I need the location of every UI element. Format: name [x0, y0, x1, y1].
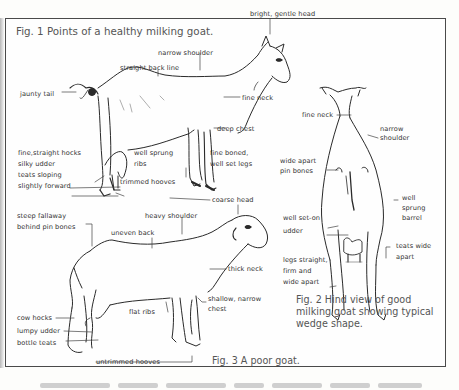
- label-bright-gentle-head: bright, gentle head: [250, 10, 315, 18]
- label-lumpy-udder: lumpy udder: [17, 327, 60, 335]
- label-slightly-forward: slightly forward: [18, 182, 71, 190]
- fig2-caption-line1: Fig. 2 Hind view of good: [296, 294, 411, 306]
- label-thick-neck: thick neck: [228, 265, 263, 273]
- label-well-sprung: well sprung: [134, 149, 173, 157]
- label-wide-apart: wide apart: [280, 157, 316, 165]
- healthy-goat-drawing: [70, 36, 290, 196]
- label-firm-and: firm and: [283, 267, 311, 275]
- label-udder: udder: [283, 227, 303, 235]
- fig1-leader-lines: [62, 19, 270, 200]
- label-apart: apart: [396, 253, 414, 261]
- fig2-caption-line3: wedge shape.: [296, 318, 363, 330]
- goat-illustrations: [0, 0, 459, 390]
- fig3-caption: Fig. 3 A poor goat.: [212, 355, 300, 367]
- label-pin-bones: pin bones: [280, 167, 313, 175]
- label-deep-chest: deep chest: [217, 125, 254, 133]
- label-sprung: sprung: [402, 204, 425, 212]
- label-well: well: [402, 194, 416, 202]
- label-legs-straight: legs straight,: [283, 256, 328, 264]
- cut-off-body-text: [40, 376, 440, 390]
- label-trimmed-hooves: trimmed hooves: [120, 178, 175, 186]
- label-straight-back-line: straight back line: [120, 64, 179, 72]
- label-teats-sloping: teats sloping: [18, 171, 62, 179]
- label-teats-wide: teats wide: [396, 242, 431, 250]
- hind-view-goat-drawing: [320, 87, 386, 320]
- label-shallow-narrow: shallow, narrow: [208, 295, 261, 303]
- label-shoulder: shoulder: [380, 134, 409, 142]
- label-fine-neck: fine neck: [242, 94, 273, 102]
- label-chest: chest: [208, 305, 226, 313]
- label-well-set-on: well set-on: [283, 214, 320, 222]
- label-fine-neck-hind: fine neck: [302, 111, 333, 119]
- fig2-caption-line2: milking goat showing typical: [296, 306, 433, 318]
- label-behind-pin-bones: behind pin bones: [17, 223, 76, 231]
- label-ribs: ribs: [134, 160, 147, 168]
- label-steep-fallaway: steep fallaway: [17, 212, 66, 220]
- label-jaunty-tail: jaunty tail: [20, 90, 54, 98]
- label-flat-ribs: flat ribs: [129, 308, 155, 316]
- fig1-caption: Fig. 1 Points of a healthy milking goat.: [16, 25, 213, 37]
- label-uneven-back: uneven back: [111, 229, 154, 237]
- label-narrow-shoulder: narrow shoulder: [158, 49, 213, 57]
- label-wide-apart-legs: wide apart: [283, 278, 319, 286]
- label-cow-hocks: cow hocks: [17, 314, 52, 322]
- label-untrimmed-hooves: untrimmed hooves: [96, 358, 160, 366]
- label-fine-boned: fine boned,: [210, 149, 248, 157]
- label-barrel: barrel: [402, 214, 422, 222]
- poor-goat-drawing: [68, 216, 268, 353]
- label-well-set-legs: well set legs: [210, 160, 252, 168]
- label-heavy-shoulder: heavy shoulder: [145, 212, 197, 220]
- label-silky-udder: silky udder: [18, 160, 55, 168]
- label-coarse-head: coarse head: [212, 196, 254, 204]
- label-fine-straight-hocks: fine,straight hocks: [18, 149, 81, 157]
- label-narrow: narrow: [380, 125, 403, 133]
- label-bottle-teats: bottle teats: [17, 339, 56, 347]
